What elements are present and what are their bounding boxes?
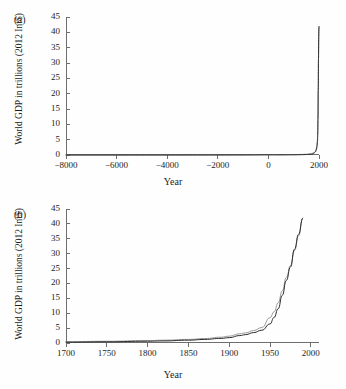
y-tick-label: 0	[34, 337, 60, 347]
panel-a-y-axis-label: World GDP in trillions (2012 Int$)	[14, 4, 24, 154]
x-tick-label: 2000	[291, 160, 346, 170]
y-tick-label: 35	[34, 233, 60, 243]
y-tick-label: 30	[34, 248, 60, 258]
x-tick-label: −8000	[38, 160, 94, 170]
series-line-grey	[66, 218, 303, 342]
panel-a: (a) World GDP in trillions (2012 Int$) 0…	[0, 0, 346, 194]
panel-b-series-lines	[66, 209, 319, 343]
x-tick-label: 2000	[283, 348, 339, 358]
y-tick-label: 45	[34, 11, 60, 21]
series-line-grey	[66, 26, 319, 155]
y-tick-label: 0	[34, 149, 60, 159]
series-line-black	[66, 218, 303, 342]
y-tick-label: 15	[34, 103, 60, 113]
x-tick-mark	[310, 343, 311, 347]
panel-a-plot-area: 051015202530354045 −8000−6000−4000−20000…	[66, 17, 319, 155]
x-tick-mark	[229, 343, 230, 347]
y-tick-label: 25	[34, 72, 60, 82]
y-tick-label: 20	[34, 88, 60, 98]
y-tick-label: 5	[34, 134, 60, 144]
x-tick-mark	[268, 155, 269, 159]
x-tick-mark	[66, 155, 67, 159]
panel-a-series-lines	[66, 17, 319, 155]
y-tick-label: 40	[34, 218, 60, 228]
figure-world-gdp: (a) World GDP in trillions (2012 Int$) 0…	[0, 0, 346, 389]
x-tick-mark	[106, 343, 107, 347]
y-tick-label: 35	[34, 42, 60, 52]
y-tick-label: 25	[34, 263, 60, 273]
x-tick-mark	[66, 343, 67, 347]
x-tick-mark	[319, 155, 320, 159]
y-tick-label: 5	[34, 322, 60, 332]
y-tick-label: 10	[34, 307, 60, 317]
y-tick-label: 20	[34, 277, 60, 287]
panel-a-x-axis-label: Year	[0, 176, 346, 187]
x-tick-label: −4000	[139, 160, 195, 170]
x-tick-label: 0	[240, 160, 296, 170]
y-tick-label: 30	[34, 57, 60, 67]
panel-b: (b) World GDP in trillions (2012 Int$) 0…	[0, 195, 346, 389]
series-line-black	[66, 26, 319, 155]
panel-b-x-axis-label: Year	[0, 369, 346, 380]
x-tick-label: −6000	[89, 160, 145, 170]
panel-b-plot-area: 051015202530354045 170017501800185019001…	[66, 209, 319, 343]
y-tick-label: 40	[34, 26, 60, 36]
x-tick-mark	[188, 343, 189, 347]
x-tick-mark	[270, 343, 271, 347]
x-tick-mark	[217, 155, 218, 159]
y-tick-label: 45	[34, 203, 60, 213]
x-tick-mark	[147, 343, 148, 347]
x-tick-label: −2000	[190, 160, 246, 170]
y-tick-label: 10	[34, 118, 60, 128]
panel-b-y-axis-label: World GDP in trillions (2012 Int$)	[14, 199, 24, 349]
x-tick-mark	[116, 155, 117, 159]
y-tick-label: 15	[34, 292, 60, 302]
x-tick-mark	[167, 155, 168, 159]
